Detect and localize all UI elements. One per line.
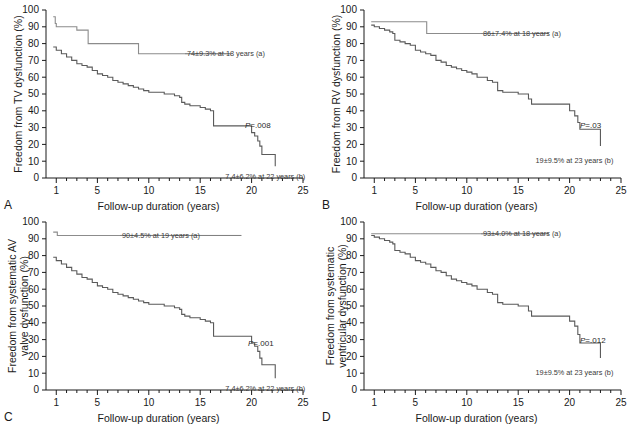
x-tick-label: 5: [413, 397, 419, 408]
y-tick-label: 0: [33, 172, 39, 183]
x-tick-label: 10: [461, 185, 473, 196]
curve-b-c: [53, 257, 275, 378]
panel-b: 0102030405060708090100151015202586±7.4% …: [318, 0, 635, 212]
label-b-c: 7.4±6.2% at 22 years (b): [225, 384, 305, 393]
p-value-b: P=.03: [580, 121, 602, 130]
y-tick-label: 0: [351, 384, 357, 395]
y-tick-label: 50: [346, 88, 358, 99]
figure-container: 0102030405060708090100151015202574±9.3% …: [0, 0, 635, 424]
panel-a: 0102030405060708090100151015202574±9.3% …: [0, 0, 317, 212]
x-axis-label-c: Follow-up duration (years): [0, 412, 317, 424]
y-tick-label: 100: [340, 4, 357, 15]
y-tick-label: 20: [346, 139, 358, 150]
y-tick-label: 70: [28, 55, 40, 66]
x-tick-label: 15: [195, 397, 207, 408]
x-tick-label: 15: [195, 185, 207, 196]
label-a-c: 90±4.5% at 19 years (a): [122, 231, 200, 240]
panel-letter-b: B: [322, 198, 330, 212]
y-tick-label: 10: [346, 156, 358, 167]
y-tick-label: 60: [346, 72, 358, 83]
y-tick-label: 80: [28, 38, 40, 49]
y-tick-label: 100: [22, 216, 39, 227]
curve-b-a: [53, 47, 275, 166]
axes: 01020304050607080901001510152025: [22, 4, 309, 196]
x-tick-label: 25: [615, 185, 627, 196]
curve-a-a: [53, 17, 231, 54]
y-tick-label: 10: [346, 368, 358, 379]
label-a-d: 93±4.0% at 18 years (a): [483, 229, 561, 238]
label-b-b: 19±9.5% at 23 years (b): [536, 156, 614, 165]
y-tick-label: 80: [346, 38, 358, 49]
x-tick-label: 1: [53, 185, 59, 196]
x-axis-label-b: Follow-up duration (years): [318, 200, 635, 212]
y-tick-label: 90: [28, 21, 40, 32]
y-tick-label: 40: [28, 105, 40, 116]
y-tick-label: 90: [346, 21, 358, 32]
y-tick-label: 90: [346, 233, 358, 244]
y-tick-label: 40: [346, 105, 358, 116]
y-tick-label: 10: [28, 156, 40, 167]
y-axis-label-a: Freedom from TV dysfunction (%): [12, 15, 24, 172]
y-tick-label: 70: [346, 55, 358, 66]
y-axis-label-b: Freedom from RV dysfunction (%): [330, 15, 342, 174]
y-tick-label: 60: [28, 72, 40, 83]
axes: 01020304050607080901001510152025: [340, 216, 627, 408]
panel-c: 0102030405060708090100151015202590±4.5% …: [0, 212, 317, 424]
y-axis-label-d: Freedom from systematic ventricular dysf…: [324, 244, 348, 368]
x-tick-label: 20: [564, 185, 576, 196]
panel-d: 0102030405060708090100151015202593±4.0% …: [318, 212, 635, 424]
x-axis-label-d: Follow-up duration (years): [318, 412, 635, 424]
x-tick-label: 10: [461, 397, 473, 408]
label-a-a: 74±9.3% at 18 years (a): [187, 49, 265, 58]
y-tick-label: 30: [28, 122, 40, 133]
y-axis-label-c: Freedom from systematic AV valve dysfunc…: [6, 239, 30, 373]
x-tick-label: 15: [513, 185, 525, 196]
x-tick-label: 1: [53, 397, 59, 408]
x-tick-label: 20: [246, 185, 258, 196]
panel-letter-c: C: [4, 410, 13, 424]
curve-b-b: [371, 25, 600, 146]
x-tick-label: 1: [371, 397, 377, 408]
y-tick-label: 0: [33, 384, 39, 395]
p-value-a: P=.008: [245, 121, 271, 130]
x-tick-label: 10: [143, 185, 155, 196]
x-tick-label: 25: [615, 397, 627, 408]
x-tick-label: 5: [95, 185, 101, 196]
x-tick-label: 20: [564, 397, 576, 408]
x-axis-label-a: Follow-up duration (years): [0, 200, 317, 212]
y-tick-label: 100: [22, 4, 39, 15]
y-tick-label: 100: [340, 216, 357, 227]
y-tick-label: 20: [28, 139, 40, 150]
y-tick-label: 30: [346, 122, 358, 133]
plot-area-d: 0102030405060708090100151015202593±4.0% …: [318, 212, 635, 424]
curve-b-d: [371, 235, 600, 358]
x-tick-label: 5: [413, 185, 419, 196]
x-tick-label: 20: [246, 397, 258, 408]
x-tick-label: 25: [297, 397, 309, 408]
y-tick-label: 0: [351, 172, 357, 183]
y-tick-label: 50: [28, 88, 40, 99]
plot-area-a: 0102030405060708090100151015202574±9.3% …: [0, 0, 317, 212]
plot-area-c: 0102030405060708090100151015202590±4.5% …: [0, 212, 317, 424]
x-tick-label: 25: [297, 185, 309, 196]
panel-letter-a: A: [4, 198, 12, 212]
x-tick-label: 5: [95, 397, 101, 408]
label-a-b: 86±7.4% at 18 years (a): [483, 29, 561, 38]
x-tick-label: 15: [513, 397, 525, 408]
p-value-d: P=.012: [580, 336, 606, 345]
label-b-d: 19±9.5% at 23 years (b): [536, 368, 614, 377]
p-value-c: P=.001: [248, 339, 274, 348]
axes: 01020304050607080901001510152025: [22, 216, 309, 408]
plot-area-b: 0102030405060708090100151015202586±7.4% …: [318, 0, 635, 212]
x-tick-label: 1: [371, 185, 377, 196]
label-b-a: 7.4±6.2% at 22 years (b): [225, 172, 305, 181]
panel-letter-d: D: [322, 410, 331, 424]
x-tick-label: 10: [143, 397, 155, 408]
